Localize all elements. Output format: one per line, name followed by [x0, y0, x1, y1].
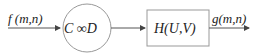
- input-label: f (m,n): [8, 12, 43, 25]
- output-label: g(m,n): [212, 12, 246, 25]
- box-label: H(U,V): [154, 22, 196, 36]
- diagram-canvas: [0, 0, 261, 55]
- circle-label: C ∞D: [64, 22, 97, 36]
